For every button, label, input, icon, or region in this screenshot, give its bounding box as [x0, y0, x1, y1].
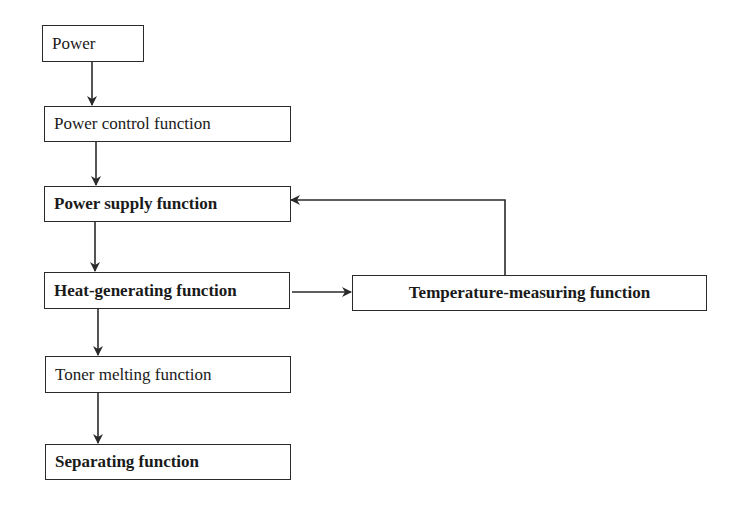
- node-toner-melting-function: Toner melting function: [45, 356, 291, 393]
- node-temperature-measuring-function: Temperature-measuring function: [352, 275, 707, 311]
- node-label: Separating function: [55, 452, 199, 472]
- node-label: Temperature-measuring function: [409, 283, 650, 303]
- node-label: Power control function: [54, 114, 211, 134]
- node-power-supply-function: Power supply function: [44, 186, 291, 222]
- node-label: Heat-generating function: [54, 281, 237, 301]
- connector-layer: [0, 0, 751, 509]
- node-label: Power: [52, 34, 95, 54]
- node-heat-generating-function: Heat-generating function: [44, 272, 290, 309]
- node-power: Power: [42, 25, 144, 62]
- arrow-temperature-feedback-to-power-supply: [291, 200, 505, 275]
- node-label: Power supply function: [54, 194, 217, 214]
- node-power-control-function: Power control function: [44, 106, 291, 142]
- node-label: Toner melting function: [55, 365, 212, 385]
- node-separating-function: Separating function: [45, 444, 291, 480]
